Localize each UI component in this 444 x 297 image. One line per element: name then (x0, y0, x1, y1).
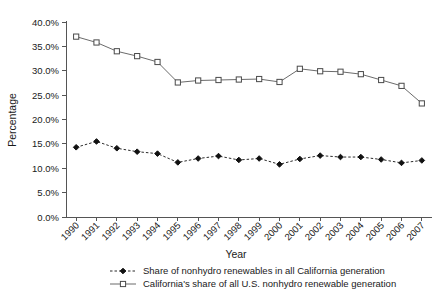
x-tick-label: 2005 (363, 220, 386, 243)
data-point-marker (196, 78, 201, 83)
series-line (76, 141, 422, 164)
x-tick-label: 1998 (221, 220, 244, 243)
data-point-marker (256, 156, 262, 162)
series-1 (73, 139, 424, 168)
series-line (76, 37, 422, 104)
x-axis-label: Year (225, 248, 247, 260)
data-point-marker (155, 59, 160, 64)
data-point-marker (216, 77, 221, 82)
data-point-marker (338, 154, 344, 160)
data-point-marker (358, 72, 363, 77)
y-tick-label: 30.0% (32, 65, 59, 76)
x-tick-label: 2006 (384, 220, 407, 243)
x-tick-label: 1996 (180, 220, 203, 243)
data-point-marker (73, 144, 79, 150)
x-tick-label: 2000 (262, 220, 285, 243)
data-point-marker (419, 158, 425, 164)
series-2 (74, 34, 425, 106)
x-axis-ticks: 1990199119921993199419951996199719981999… (58, 217, 426, 242)
data-point-marker (338, 69, 343, 74)
data-point-marker (277, 79, 282, 84)
x-tick-label: 2004 (343, 220, 366, 243)
data-point-marker (399, 160, 405, 166)
data-point-marker (257, 76, 262, 81)
data-point-marker (378, 157, 384, 163)
data-point-marker (195, 156, 201, 162)
data-point-marker (175, 80, 180, 85)
y-tick-label: 35.0% (32, 41, 59, 52)
data-point-marker (216, 153, 222, 159)
x-tick-label: 1990 (58, 220, 81, 243)
data-point-marker (318, 69, 323, 74)
y-tick-label: 0.0% (37, 212, 59, 223)
data-point-marker (236, 77, 241, 82)
y-axis-label: Percentage (6, 93, 18, 147)
x-tick-label: 1994 (140, 220, 163, 243)
data-point-marker (399, 83, 404, 88)
legend-item-1: Share of nonhydro renewables in all Cali… (110, 265, 385, 276)
y-tick-label: 25.0% (32, 90, 59, 101)
data-point-marker (419, 101, 424, 106)
x-tick-label: 1995 (160, 220, 183, 243)
data-point-marker (297, 156, 303, 162)
x-tick-label: 1993 (119, 220, 142, 243)
data-point-marker (74, 34, 79, 39)
legend-label: California's share of all U.S. nonhydro … (143, 278, 396, 289)
data-point-marker (94, 139, 100, 145)
data-point-marker (317, 153, 323, 159)
y-tick-label: 10.0% (32, 163, 59, 174)
x-tick-label: 1992 (99, 220, 122, 243)
legend-label: Share of nonhydro renewables in all Cali… (143, 265, 385, 276)
data-point-marker (120, 281, 125, 286)
data-point-marker (358, 154, 364, 160)
data-point-marker (135, 54, 140, 59)
y-axis-ticks: 0.0%5.0%10.0%15.0%20.0%25.0%30.0%35.0%40… (32, 17, 66, 223)
chart-container: 0.0%5.0%10.0%15.0%20.0%25.0%30.0%35.0%40… (0, 0, 444, 297)
x-tick-label: 2007 (404, 220, 427, 243)
y-tick-label: 40.0% (32, 17, 59, 28)
data-point-marker (155, 151, 161, 157)
y-tick-label: 20.0% (32, 114, 59, 125)
x-tick-label: 2003 (323, 220, 346, 243)
x-tick-label: 2001 (282, 220, 305, 243)
x-tick-label: 1991 (79, 220, 102, 243)
x-tick-label: 1997 (201, 220, 224, 243)
data-point-marker (120, 268, 126, 274)
data-point-marker (236, 157, 242, 163)
y-tick-label: 15.0% (32, 138, 59, 149)
data-point-marker (114, 49, 119, 54)
data-point-marker (94, 40, 99, 45)
data-point-marker (175, 160, 181, 166)
x-tick-label: 1999 (241, 220, 264, 243)
data-point-marker (297, 66, 302, 71)
x-tick-label: 2002 (302, 220, 325, 243)
line-chart: 0.0%5.0%10.0%15.0%20.0%25.0%30.0%35.0%40… (0, 0, 444, 297)
chart-legend: Share of nonhydro renewables in all Cali… (110, 265, 396, 289)
data-point-marker (379, 77, 384, 82)
data-point-marker (134, 149, 140, 155)
data-point-marker (277, 162, 283, 168)
data-point-marker (114, 145, 120, 151)
legend-item-2: California's share of all U.S. nonhydro … (110, 278, 396, 289)
series-layer (73, 34, 424, 167)
y-tick-label: 5.0% (37, 187, 59, 198)
